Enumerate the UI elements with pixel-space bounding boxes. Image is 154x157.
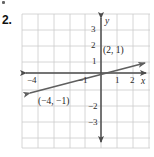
- y-tick-label-neg3: −3: [88, 118, 98, 127]
- x-tick-label-2: 2: [130, 76, 135, 85]
- x-axis-label: x: [141, 77, 145, 86]
- y-tick-label-3: 3: [91, 25, 96, 34]
- y-tick-label-1: 1: [92, 57, 97, 66]
- point-label-neg4-neg1: (−4, −1): [38, 97, 69, 106]
- point-label-2-1: (2, 1): [103, 46, 124, 55]
- y-axis-label: y: [105, 17, 109, 26]
- x-tick-label-neg4: −4: [27, 76, 37, 85]
- y-tick-label-2: 2: [91, 41, 96, 50]
- x-tick-label-1: 1: [115, 76, 120, 85]
- x-tick-label-neg1: −1: [78, 76, 88, 85]
- y-tick-label-neg2: −2: [88, 102, 98, 111]
- graph-figure: 2.: [0, 0, 154, 157]
